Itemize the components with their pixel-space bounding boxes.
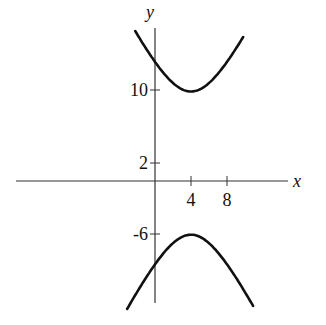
y-tick-label-2: 2 [139, 153, 148, 173]
y-tick-label-neg6: -6 [133, 224, 148, 244]
hyperbola-plot: x y 4 8 10 2 -6 [0, 0, 326, 325]
upper-branch-curve [135, 31, 243, 92]
x-axis-label: x [292, 171, 301, 191]
y-tick-label-10: 10 [130, 80, 148, 100]
y-axis-label: y [144, 2, 154, 22]
lower-branch-curve [127, 235, 253, 309]
x-tick-label-4: 4 [187, 190, 196, 210]
x-tick-label-8: 8 [223, 190, 232, 210]
